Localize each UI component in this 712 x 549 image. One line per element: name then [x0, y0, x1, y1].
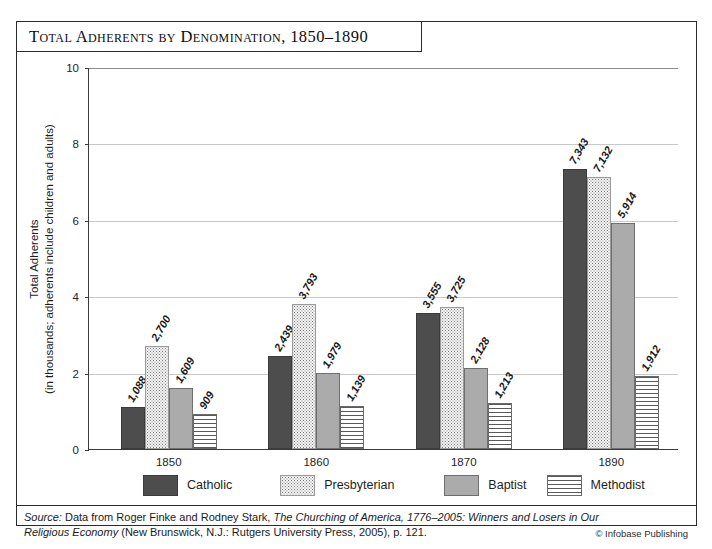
- bar-value-label: 7,343: [567, 136, 591, 166]
- legend-label: Catholic: [187, 478, 232, 492]
- bar-value-label: 1,139: [344, 373, 368, 403]
- legend-item-baptist[interactable]: Baptist: [444, 475, 526, 496]
- y-axis-tick-mark: [85, 68, 89, 69]
- grid-line: [89, 144, 678, 145]
- y-axis-tick-mark: [85, 374, 89, 375]
- y-axis-tick-mark: [85, 221, 89, 222]
- grid-line: [89, 68, 678, 69]
- page-title: Total Adherents by Denomination, 1850–18…: [29, 27, 368, 47]
- y-axis-tick-label: 4: [57, 291, 79, 303]
- y-axis-title-line1: Total Adherents: [27, 124, 42, 394]
- y-axis-tick-label: 0: [57, 444, 79, 456]
- y-axis-tick-mark: [85, 144, 89, 145]
- source-note: Source: Data from Roger Finke and Rodney…: [24, 510, 624, 539]
- legend-item-methodist[interactable]: Methodist: [547, 475, 645, 496]
- bar-value-label: 7,132: [591, 144, 615, 174]
- legend-item-catholic[interactable]: Catholic: [143, 475, 232, 496]
- bar-value-label: 1,912: [639, 343, 663, 373]
- bar-baptist-1890[interactable]: 5,914: [611, 223, 635, 449]
- copyright-notice: © Infobase Publishing: [595, 528, 688, 539]
- y-axis-title-line2: (in thousands; adherents include childre…: [42, 124, 57, 394]
- bar-baptist-1870[interactable]: 2,128: [464, 368, 488, 449]
- bar-methodist-1850[interactable]: 909: [193, 414, 217, 449]
- legend-label: Baptist: [488, 478, 526, 492]
- legend-swatch-methodist: [547, 475, 582, 496]
- bar-baptist-1850[interactable]: 1,609: [169, 388, 193, 449]
- bar-presbyterian-1860[interactable]: 3,793: [292, 304, 316, 449]
- bar-value-label: 5,914: [615, 190, 639, 220]
- legend-label: Presbyterian: [324, 478, 394, 492]
- bar-presbyterian-1890[interactable]: 7,132: [587, 177, 611, 449]
- source-divider: [17, 505, 696, 506]
- y-axis-title: Total Adherents (in thousands; adherents…: [22, 68, 62, 450]
- legend-swatch-baptist: [444, 475, 479, 496]
- bar-methodist-1890[interactable]: 1,912: [635, 376, 659, 449]
- bar-value-label: 2,700: [148, 313, 172, 343]
- bar-presbyterian-1870[interactable]: 3,725: [440, 307, 464, 449]
- y-axis-tick-label: 10: [57, 62, 79, 74]
- bar-baptist-1860[interactable]: 1,979: [316, 373, 340, 449]
- bar-catholic-1850[interactable]: 1,088: [121, 407, 145, 449]
- bar-catholic-1860[interactable]: 2,439: [268, 356, 292, 449]
- source-text-a: Data from Roger Finke and Rodney Stark,: [62, 511, 274, 523]
- bar-methodist-1870[interactable]: 1,213: [488, 403, 512, 449]
- bar-value-label: 3,725: [443, 274, 467, 304]
- y-axis-tick-mark: [85, 297, 89, 298]
- chart-title-box: Total Adherents by Denomination, 1850–18…: [16, 21, 422, 52]
- x-axis-tick-label-1870: 1870: [451, 456, 477, 468]
- source-title-part1: The Churching of America, 1776–2005: Win…: [273, 511, 565, 523]
- bar-value-label: 2,128: [467, 335, 491, 365]
- bar-value-label: 1,609: [172, 355, 196, 385]
- legend-label: Methodist: [591, 478, 645, 492]
- legend-swatch-catholic: [143, 475, 178, 496]
- x-axis-tick-label-1890: 1890: [598, 456, 624, 468]
- y-axis-tick-label: 2: [57, 368, 79, 380]
- bar-catholic-1870[interactable]: 3,555: [416, 313, 440, 449]
- chart-plot-area: 02468101,0882,7001,60990918502,4393,7931…: [88, 68, 678, 450]
- bar-value-label: 3,555: [419, 280, 443, 310]
- y-axis-tick-label: 6: [57, 215, 79, 227]
- chart-legend: CatholicPresbyterianBaptistMethodist: [88, 472, 678, 498]
- bar-methodist-1860[interactable]: 1,139: [340, 406, 364, 450]
- source-text-b: (New Brunswick, N.J.: Rutgers University…: [118, 526, 427, 538]
- x-axis-tick-label-1850: 1850: [156, 456, 182, 468]
- y-axis-tick-label: 8: [57, 138, 79, 150]
- y-axis-tick-mark: [85, 450, 89, 451]
- source-prefix: Source:: [24, 511, 62, 523]
- bar-presbyterian-1850[interactable]: 2,700: [145, 346, 169, 449]
- bar-value-label: 1,979: [320, 341, 344, 371]
- legend-item-presbyterian[interactable]: Presbyterian: [280, 475, 394, 496]
- x-axis-tick-label-1860: 1860: [303, 456, 329, 468]
- legend-swatch-presbyterian: [280, 475, 315, 496]
- bar-catholic-1890[interactable]: 7,343: [563, 169, 587, 450]
- bar-value-label: 909: [196, 389, 216, 411]
